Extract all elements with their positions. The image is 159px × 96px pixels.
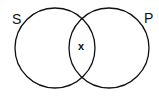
intersection-marker: x	[78, 41, 84, 52]
set-s-label: S	[12, 12, 21, 26]
set-p-label: P	[144, 11, 153, 25]
